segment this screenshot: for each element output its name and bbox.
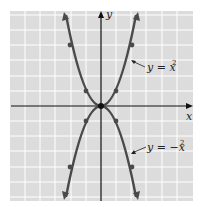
curve-label-exp: 2 — [172, 59, 176, 67]
x-axis-label: x — [186, 110, 193, 123]
parabola-graph: y x y = x 2 y = −x 2 — [0, 0, 203, 207]
y-axis-label: y — [105, 8, 113, 21]
curve-label-exp: 2 — [180, 139, 184, 147]
